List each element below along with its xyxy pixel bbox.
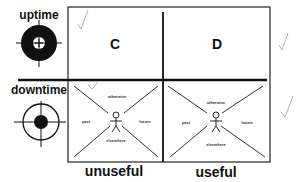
quadrant-d-label: D: [212, 36, 222, 52]
column-label-useful: useful: [168, 164, 264, 180]
stick-figure-icon: [110, 112, 122, 132]
row-label-downtime: downtime: [6, 83, 72, 97]
target-bullseye-icon: [14, 101, 66, 147]
label-otherwise: otherwise: [100, 94, 134, 99]
label-elsewhere: elsewhere: [198, 142, 234, 147]
label-future: future: [236, 120, 258, 125]
label-past: past: [176, 120, 196, 125]
label-future: future: [134, 119, 156, 124]
row-label-uptime: uptime: [6, 8, 72, 22]
label-otherwise: otherwise: [198, 100, 234, 105]
target-ring-icon: [16, 20, 62, 67]
quadrant-c-label: C: [110, 36, 120, 52]
column-label-unuseful: unuseful: [66, 163, 162, 179]
label-past: past: [76, 119, 96, 124]
stick-figure-icon: [210, 112, 222, 132]
label-elsewhere: elsewhere: [98, 138, 134, 143]
check-mark-icon: [78, 10, 293, 117]
